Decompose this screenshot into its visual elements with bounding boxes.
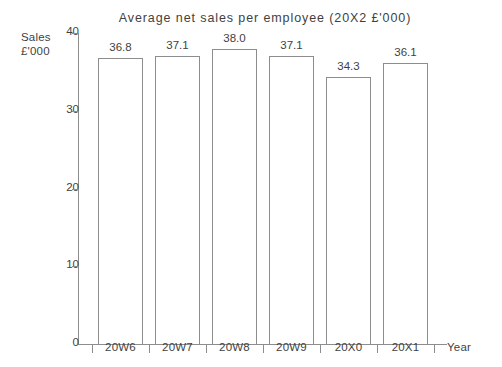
- category-label-20W9: 20W9: [261, 341, 322, 353]
- category-label-20W6: 20W6: [90, 341, 151, 353]
- category-label-20X1: 20X1: [375, 341, 436, 353]
- y-tick-label: 30: [43, 103, 79, 115]
- chart-title: Average net sales per employee (20X2 £'0…: [100, 11, 430, 25]
- bar-value-20W7: 37.1: [145, 39, 210, 51]
- category-label-20W8: 20W8: [204, 341, 265, 353]
- y-tick-mark: [72, 266, 79, 267]
- bar-20W8: [212, 49, 257, 344]
- bar-20W6: [98, 58, 143, 344]
- bar-value-20W9: 37.1: [259, 39, 324, 51]
- bar-value-20W8: 38.0: [202, 32, 267, 44]
- y-tick-0: 0: [30, 344, 79, 345]
- bar-20X1: [383, 63, 428, 344]
- bar-value-20X0: 34.3: [316, 60, 381, 72]
- y-axis-label-line2: £'000: [21, 44, 51, 58]
- bar-20W9: [269, 56, 314, 344]
- category-label-20W7: 20W7: [147, 341, 208, 353]
- bar-chart: Average net sales per employee (20X2 £'0…: [0, 0, 502, 367]
- y-tick-label: 0: [43, 336, 79, 348]
- bar-value-20X1: 36.1: [373, 46, 438, 58]
- bar-value-20W6: 36.8: [88, 41, 153, 53]
- category-label-20X0: 20X0: [318, 341, 379, 353]
- y-tick-label: 40: [43, 25, 79, 37]
- y-tick-mark: [72, 111, 79, 112]
- y-tick-label: 20: [43, 181, 79, 193]
- bar-20W7: [155, 56, 200, 344]
- y-tick-mark: [72, 33, 79, 34]
- y-tick-mark: [72, 189, 79, 190]
- bar-20X0: [326, 77, 371, 344]
- y-tick-label: 10: [43, 258, 79, 270]
- x-axis-label: Year: [447, 341, 471, 353]
